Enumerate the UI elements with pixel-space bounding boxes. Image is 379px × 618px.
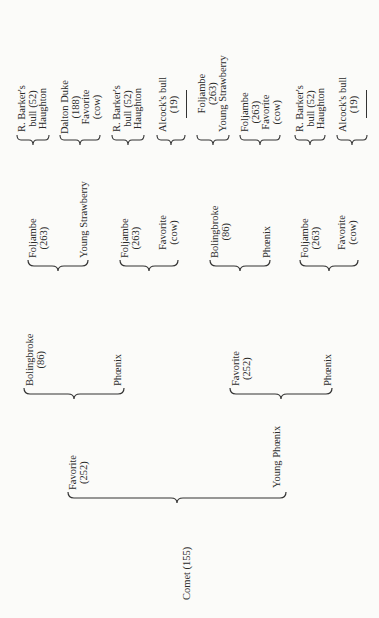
level4-7-line3: Haughton [316,85,327,132]
level4-3-line3: Haughton [133,85,144,132]
brace-level3-4 [298,258,360,272]
level4-2-line4: (cow) [92,80,103,134]
sire-sire-name: Bolingbroke [25,334,36,387]
level4-7-line1: R. Barker's [295,85,306,132]
brace-level4-6 [239,134,281,146]
level4-1-line1: R. Barker's [17,85,28,132]
root-name: Comet (155) [182,547,193,600]
level4-8-line2: (19) [349,77,360,132]
sire-dam: Phœnix [113,354,124,386]
level4-6-line3: Favorite [261,92,272,132]
level4-3: R. Barker's bull (52) Haughton [112,85,144,132]
level3-1-top-name: Foljambe [28,218,39,258]
level3-3-top: Bolingbroke (86) [210,206,231,259]
dam-dam: Phœnix [323,354,334,386]
level4-8: Alcock's bull (19) [338,77,370,132]
pedigree-page: Comet (155) Favorite (252) Young Phœnix … [0,0,379,618]
level4-5-line1: Foljambe [197,55,208,132]
dam-sire-number: (252) [242,351,253,386]
level4-1-line3: Haughton [38,85,49,132]
level4-6-line1: Foljambe [240,92,251,132]
level3-2-bottom-note: (cow) [169,215,180,250]
level3-1-bottom-name: Young Strawberry [79,181,90,258]
brace-level3-1 [26,258,90,272]
level3-3-bottom: Phœnix [262,226,273,258]
brace-level4-4 [156,134,186,146]
level3-1-bottom: Young Strawberry [79,181,90,258]
level3-1-top-number: (263) [39,218,50,258]
level3-3-top-name: Bolingbroke [210,206,221,259]
level4-4: Alcock's bull (19) [158,77,190,132]
level3-4-top: Foljambe (263) [300,218,321,258]
level3-3-bottom-name: Phœnix [262,226,273,258]
level3-4-bottom: Favorite (cow) [337,215,358,250]
dam-sire: Favorite (252) [231,351,252,386]
level4-2: Dalton Duke (188) Favorite (cow) [60,80,102,134]
level3-2-top-name: Foljambe [120,218,131,258]
level4-4-blank-line [179,77,190,132]
brace-level3-3 [208,258,272,272]
brace-level2-sire [22,386,126,400]
brace-level4-1 [16,134,50,146]
sire-sire: Bolingbroke (86) [25,334,46,387]
brace-level3-2 [118,258,180,272]
sire: Favorite (252) [68,455,89,490]
level3-4-bottom-note: (cow) [348,215,359,250]
level3-2-bottom: Favorite (cow) [158,215,179,250]
brace-level4-8 [336,134,368,146]
level3-4-top-name: Foljambe [300,218,311,258]
sire-dam-name: Phœnix [113,354,124,386]
brace-level4-5 [196,134,230,146]
level4-2-line1: Dalton Duke [60,80,71,134]
dam-dam-name: Phœnix [323,354,334,386]
level4-6: Foljambe (263) Favorite (cow) [240,92,282,132]
sire-sire-number: (86) [36,334,47,387]
sire-number: (252) [79,455,90,490]
brace-level2-dam [228,386,334,400]
level3-2-top-number: (263) [131,218,142,258]
brace-level4-7 [294,134,326,146]
brace-level1 [66,490,288,504]
brace-level4-3 [111,134,145,146]
level4-7: R. Barker's bull (52) Haughton [295,85,327,132]
level4-1: R. Barker's bull (52) Haughton [17,85,49,132]
level4-3-line1: R. Barker's [112,85,123,132]
sire-name: Favorite [68,455,79,490]
dam-sire-name: Favorite [231,351,242,386]
level4-8-line1: Alcock's bull [338,77,349,132]
brace-level4-2 [59,134,101,146]
level3-2-top: Foljambe (263) [120,218,141,258]
level4-4-line1: Alcock's bull [158,77,169,132]
level4-4-line2: (19) [169,77,180,132]
dam: Young Phœnix [272,426,283,488]
level4-5: Foljambe (263) Young Strawberry [197,55,229,132]
level3-4-bottom-name: Favorite [337,215,348,250]
level4-2-line3: Favorite [81,80,92,134]
level3-4-top-number: (263) [311,218,322,258]
level4-5-line3: Young Strawberry [218,55,229,132]
level4-6-line4: (cow) [272,92,283,132]
root-animal: Comet (155) [182,547,193,600]
level3-2-bottom-name: Favorite [158,215,169,250]
level3-3-top-number: (86) [221,206,232,259]
dam-name: Young Phœnix [272,426,283,488]
level3-1-top: Foljambe (263) [28,218,49,258]
level4-8-blank-line [359,77,370,132]
